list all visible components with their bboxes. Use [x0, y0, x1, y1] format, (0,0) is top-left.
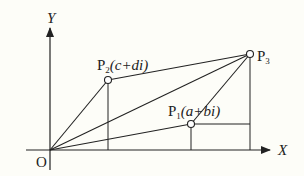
complex-plane-diagram: Y X O P2(c+di) P3 P1(a+bi) [0, 0, 304, 176]
vector-o-p3 [50, 54, 250, 150]
point-p1 [188, 121, 195, 128]
p2-label: P2(c+di) [97, 57, 148, 75]
point-p2 [105, 77, 112, 84]
origin-label: O [36, 154, 47, 170]
p1-label: P1(a+bi) [168, 103, 220, 121]
vector-o-p2 [50, 80, 108, 150]
x-axis-label: X [277, 142, 288, 158]
y-axis-label: Y [47, 10, 57, 26]
point-p3 [247, 51, 254, 58]
vector-o-p1 [50, 124, 191, 150]
p3-label: P3 [257, 48, 270, 66]
